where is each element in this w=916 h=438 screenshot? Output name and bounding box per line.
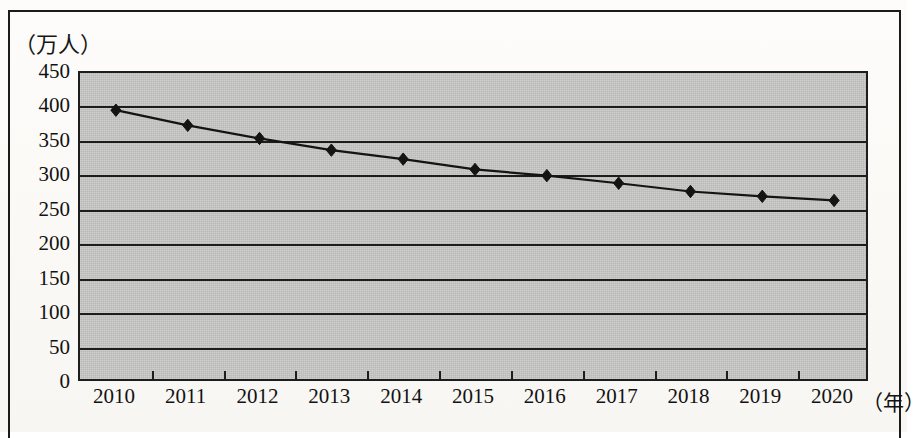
x-axis-tick-label: 2020	[795, 386, 869, 407]
data-point-marker	[685, 185, 695, 197]
y-axis-tick-label: 200	[10, 233, 70, 254]
x-axis-tick-label: 2010	[77, 386, 151, 407]
data-point-marker	[111, 104, 121, 116]
data-point-marker	[254, 132, 264, 144]
data-point-marker	[470, 163, 480, 175]
data-point-marker	[757, 190, 767, 202]
plot-area	[78, 71, 868, 381]
x-axis-tick-label: 2019	[723, 386, 797, 407]
series-line-path	[116, 110, 834, 200]
x-axis-tick-label: 2018	[651, 386, 725, 407]
x-axis-tick-label: 2012	[221, 386, 295, 407]
data-point-marker	[326, 144, 336, 156]
y-axis-tick-label: 350	[10, 130, 70, 151]
y-axis-tick-label: 300	[10, 164, 70, 185]
y-axis-tick-label: 150	[10, 268, 70, 289]
x-axis-tick-labels: 2010201120122013201420152016201720182019…	[78, 386, 868, 416]
x-axis-tick-label: 2016	[508, 386, 582, 407]
y-axis-unit-label: （万人）	[14, 26, 102, 58]
data-point-marker	[542, 169, 552, 181]
x-axis-tick-label: 2013	[292, 386, 366, 407]
x-axis-tick-label: 2015	[436, 386, 510, 407]
y-axis-tick-label: 0	[10, 371, 70, 392]
x-axis-tick-label: 2014	[364, 386, 438, 407]
data-point-marker	[398, 153, 408, 165]
x-axis-tick-label: 2011	[149, 386, 223, 407]
x-axis-unit-label: （年）	[862, 386, 916, 416]
y-axis-tick-label: 100	[10, 302, 70, 323]
y-axis-tick-label: 250	[10, 199, 70, 220]
x-axis-tick-label: 2017	[580, 386, 654, 407]
data-point-marker	[183, 119, 193, 131]
data-point-marker	[614, 177, 624, 189]
y-axis-tick-labels: 450400350300250200150100500	[6, 71, 70, 381]
line-series	[80, 73, 870, 383]
y-axis-tick-label: 400	[10, 95, 70, 116]
data-point-marker	[829, 194, 839, 206]
y-axis-tick-label: 50	[10, 337, 70, 358]
series-markers	[111, 104, 839, 207]
y-axis-tick-label: 450	[10, 61, 70, 82]
